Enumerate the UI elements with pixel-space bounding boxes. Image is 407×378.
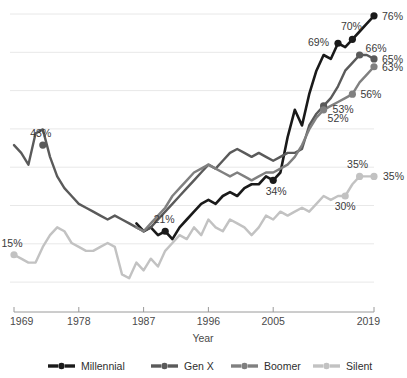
- data-point-marker: [370, 55, 377, 62]
- legend-label: Gen X: [184, 360, 214, 372]
- data-point-marker: [370, 173, 377, 180]
- legend-item-gen-x[interactable]: Gen X: [151, 360, 214, 372]
- data-point-marker: [356, 173, 363, 180]
- data-point-marker: [270, 177, 277, 184]
- data-point-marker: [320, 106, 327, 113]
- x-axis-tick-label: 2019: [357, 315, 381, 327]
- legend-swatch-marker: [323, 363, 329, 369]
- data-point-marker: [349, 36, 356, 43]
- data-label: 56%: [360, 88, 381, 100]
- legend-swatch-marker: [241, 363, 247, 369]
- series-line-gen-x: [14, 55, 374, 231]
- x-axis-tick-label: 2005: [262, 315, 286, 327]
- data-label: 21%: [154, 213, 175, 225]
- data-label: 76%: [382, 10, 403, 22]
- data-label: 30%: [335, 200, 356, 212]
- data-label: 35%: [383, 170, 404, 182]
- data-label: 69%: [308, 36, 329, 48]
- data-point-marker: [10, 251, 17, 258]
- data-label: 43%: [30, 127, 51, 139]
- x-axis-tick-label: 1969: [10, 315, 34, 327]
- data-label: 70%: [341, 20, 362, 32]
- series-markers: [10, 12, 377, 258]
- x-axis-title-label: Year: [192, 332, 214, 344]
- gridlines: [10, 14, 374, 282]
- chart-canvas: 21%34%69%70%76%43%53%66%65%52%56%63%15%3…: [0, 0, 407, 378]
- data-label: 35%: [347, 158, 368, 170]
- series-lines: [14, 16, 374, 278]
- data-point-marker: [162, 228, 169, 235]
- x-axis-tick-label: 1996: [197, 315, 221, 327]
- data-label: 15%: [1, 237, 22, 249]
- legend-label: Millennial: [81, 360, 125, 372]
- data-point-marker: [39, 141, 46, 148]
- data-label: 52%: [328, 112, 349, 124]
- legend-item-millennial[interactable]: Millennial: [48, 360, 125, 372]
- x-axis-tick-label: 1978: [67, 315, 91, 327]
- line-chart: 21%34%69%70%76%43%53%66%65%52%56%63%15%3…: [0, 0, 407, 378]
- legend-label: Silent: [346, 360, 372, 372]
- data-label: 34%: [266, 185, 287, 197]
- legend-label: Boomer: [264, 360, 301, 372]
- data-point-marker: [370, 63, 377, 70]
- data-point-marker: [334, 40, 341, 47]
- legend-item-boomer[interactable]: Boomer: [231, 360, 301, 372]
- data-point-marker: [370, 12, 377, 19]
- data-point-marker: [356, 51, 363, 58]
- data-point-marker: [349, 91, 356, 98]
- legend-swatch-marker: [58, 363, 64, 369]
- x-axis: 196919781987199620052019: [10, 307, 380, 327]
- data-point-marker: [342, 192, 349, 199]
- x-axis-title: Year: [192, 332, 214, 344]
- x-axis-tick-label: 1987: [132, 315, 156, 327]
- legend-item-silent[interactable]: Silent: [313, 360, 372, 372]
- data-label: 63%: [382, 61, 403, 73]
- chart-legend: MillennialGen XBoomerSilent: [48, 360, 372, 372]
- legend-swatch-marker: [161, 363, 167, 369]
